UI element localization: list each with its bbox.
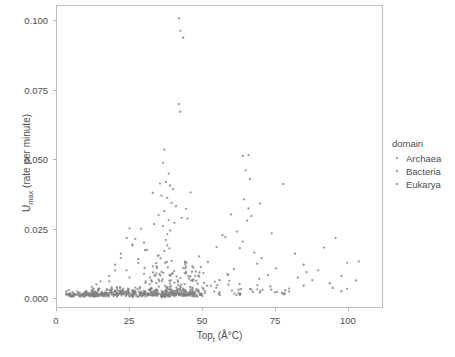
data-point [166, 233, 168, 235]
scatter-plot-figure: Umax (rate per minute) 0.0000.0250.0500.… [0, 0, 455, 357]
data-point [72, 292, 74, 294]
data-point [226, 273, 228, 275]
data-point [165, 239, 167, 241]
data-point [185, 265, 187, 267]
data-point [160, 195, 162, 197]
y-axis-title-subscript: max [26, 191, 35, 205]
data-point [152, 192, 154, 194]
data-point [184, 263, 186, 265]
data-point [231, 289, 233, 291]
data-point [116, 287, 118, 289]
data-point [275, 267, 277, 269]
data-point [114, 264, 116, 266]
data-point [288, 290, 290, 292]
data-point [164, 293, 166, 295]
data-point [137, 296, 139, 298]
data-point [137, 262, 139, 264]
data-point [215, 287, 217, 289]
y-tick-label: 0.000 [24, 293, 48, 304]
data-point [152, 271, 154, 273]
data-point [168, 219, 170, 221]
data-point [155, 262, 157, 264]
data-point [170, 260, 172, 262]
data-point [196, 295, 198, 297]
data-point [189, 289, 191, 291]
data-point [179, 111, 181, 113]
data-point [65, 290, 67, 292]
data-point [131, 289, 133, 291]
data-point [99, 280, 101, 282]
data-point [178, 103, 180, 105]
data-point [128, 227, 130, 229]
data-point [131, 294, 133, 296]
data-point [267, 274, 269, 276]
data-point [227, 284, 229, 286]
data-point [185, 295, 187, 297]
data-point [128, 288, 130, 290]
data-point [134, 238, 136, 240]
data-point [153, 223, 155, 225]
legend-item-bacteria[interactable]: Bacteria [392, 165, 455, 178]
data-point [258, 278, 260, 280]
legend-items: ArchaeaBacteriaEukarya [392, 152, 455, 191]
data-point [253, 251, 255, 253]
data-point [155, 282, 157, 284]
data-point [162, 225, 164, 227]
data-point [120, 257, 122, 259]
data-point [80, 294, 82, 296]
data-point [177, 281, 179, 283]
x-axis-title: Topt (Å°C) [56, 330, 383, 344]
data-point [166, 197, 168, 199]
data-point [170, 202, 172, 204]
data-point [94, 291, 96, 293]
legend: domain ArchaeaBacteriaEukarya [392, 138, 455, 191]
data-point [169, 184, 171, 186]
data-point [157, 278, 159, 280]
data-point [189, 292, 191, 294]
data-point [160, 290, 162, 292]
data-point [102, 295, 104, 297]
data-point [247, 154, 249, 156]
data-point [140, 228, 142, 230]
data-point [95, 283, 97, 285]
data-point [317, 269, 319, 271]
data-point [185, 208, 187, 210]
data-point [303, 264, 305, 266]
data-point [230, 213, 232, 215]
data-point [169, 282, 171, 284]
data-point [168, 172, 170, 174]
data-point [198, 275, 200, 277]
data-point [247, 207, 249, 209]
data-point [249, 178, 251, 180]
legend-item-eukarya[interactable]: Eukarya [392, 178, 455, 191]
data-point [86, 293, 88, 295]
data-point [82, 294, 84, 296]
data-point [249, 288, 251, 290]
data-point [109, 291, 111, 293]
data-point [150, 288, 152, 290]
legend-item-archaea[interactable]: Archaea [392, 152, 455, 165]
data-point [180, 283, 182, 285]
data-point [158, 280, 160, 282]
data-point [143, 273, 145, 275]
legend-item-label: Archaea [406, 153, 441, 164]
data-point [178, 17, 180, 19]
data-point [210, 285, 212, 287]
data-point [75, 294, 77, 296]
data-point [332, 287, 334, 289]
data-point [221, 234, 223, 236]
data-point [93, 295, 95, 297]
data-point [134, 287, 136, 289]
data-point [69, 293, 71, 295]
data-point [206, 285, 208, 287]
data-point [172, 188, 174, 190]
data-point [66, 294, 68, 296]
data-point [184, 289, 186, 291]
data-point [163, 210, 165, 212]
data-point [216, 284, 218, 286]
data-point [259, 202, 261, 204]
data-point [238, 283, 240, 285]
data-point [207, 261, 209, 263]
data-point [260, 257, 262, 259]
legend-marker-icon [392, 179, 403, 190]
